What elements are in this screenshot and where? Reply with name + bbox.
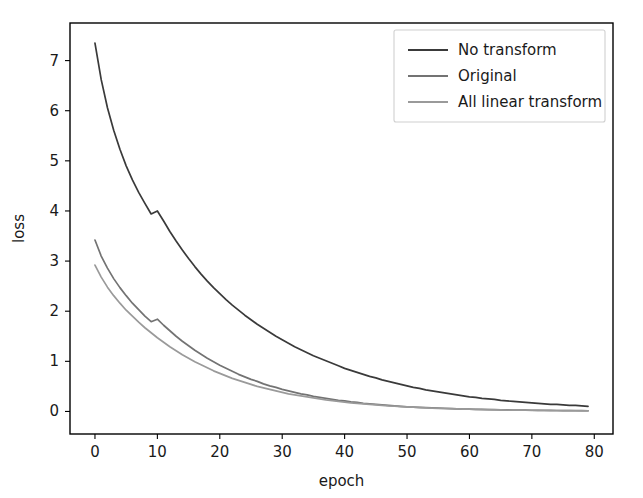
chart-figure: 01020304050607080 01234567 epoch loss No… xyxy=(0,0,643,498)
x-tick-label: 50 xyxy=(397,443,416,461)
y-tick-label: 0 xyxy=(49,402,59,420)
x-tick-label: 70 xyxy=(522,443,541,461)
x-tick-label: 40 xyxy=(335,443,354,461)
y-tick-label: 7 xyxy=(49,52,59,70)
x-axis-label: epoch xyxy=(319,472,365,490)
x-tick-label: 20 xyxy=(210,443,229,461)
x-tick-label: 30 xyxy=(273,443,292,461)
legend-label-2: All linear transform xyxy=(458,93,602,111)
legend-label-0: No transform xyxy=(458,41,557,59)
y-tick-label: 5 xyxy=(49,152,59,170)
y-tick-label: 6 xyxy=(49,102,59,120)
legend-label-1: Original xyxy=(458,67,517,85)
loss-vs-epoch-line-chart: 01020304050607080 01234567 epoch loss No… xyxy=(0,0,643,498)
x-tick-label: 80 xyxy=(585,443,604,461)
y-tick-label: 3 xyxy=(49,252,59,270)
y-axis-label: loss xyxy=(10,214,28,243)
x-tick-label: 10 xyxy=(148,443,167,461)
y-tick-label: 1 xyxy=(49,352,59,370)
y-tick-label: 2 xyxy=(49,302,59,320)
x-tick-label: 60 xyxy=(460,443,479,461)
x-tick-label: 0 xyxy=(90,443,100,461)
chart-legend: No transformOriginalAll linear transform xyxy=(394,30,605,122)
y-tick-label: 4 xyxy=(49,202,59,220)
